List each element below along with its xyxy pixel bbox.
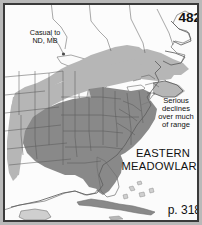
casual-record-dot	[62, 52, 65, 55]
casual-occurrence-note: Casual to ND, MB	[19, 29, 71, 44]
plate-number: 482	[163, 11, 199, 25]
page-reference: p. 318	[145, 204, 199, 217]
yucatan-peninsula	[19, 209, 51, 220]
casual-note-line-2: ND, MB	[32, 36, 57, 45]
species-name-line-2: MEADOWLARK	[121, 160, 199, 173]
population-decline-note: Serious declines over much of range	[151, 97, 199, 129]
decline-note-line-4: of range	[162, 120, 190, 129]
map-frame-border: 482 Casual to ND, MB Serious declines ov…	[3, 3, 199, 222]
species-name-line-1: EASTERN	[121, 147, 199, 160]
range-map-figure: 482 Casual to ND, MB Serious declines ov…	[0, 0, 202, 225]
species-name: EASTERN MEADOWLARK	[121, 147, 199, 172]
